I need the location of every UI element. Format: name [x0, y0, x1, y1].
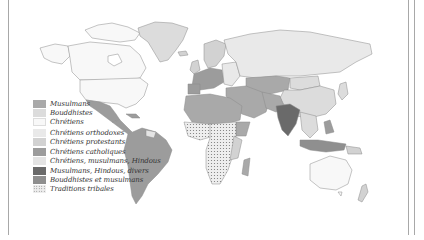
legend-item-chretiens-orthodoxes: Chrétiens orthodoxes	[33, 128, 161, 137]
legend-swatch	[33, 109, 46, 117]
legend-label: Chrétiens protestants	[50, 138, 125, 146]
legend-swatch	[33, 138, 46, 146]
legend-label: Musulmans, Hindous, divers	[50, 167, 149, 175]
region-tasmania	[338, 192, 342, 196]
legend-swatch	[33, 167, 46, 175]
legend-item-chretiens-protestants: Chrétiens protestants	[33, 137, 161, 146]
legend-label: Chrétiens orthodoxes	[50, 129, 124, 137]
map-legend: Musulmans Bouddhistes Chrétiens Chrétien…	[33, 99, 161, 193]
legend-label: Musulmans	[50, 100, 90, 108]
region-iberia	[188, 84, 200, 94]
region-japan	[338, 82, 348, 100]
legend-swatch	[33, 100, 46, 108]
region-new-zealand	[358, 184, 368, 202]
region-west-africa	[184, 122, 214, 140]
region-australia	[310, 156, 352, 190]
region-iceland	[178, 51, 188, 56]
legend-item-musulmans: Musulmans	[33, 99, 161, 108]
region-indonesia	[300, 140, 346, 152]
region-southeast-asia	[300, 112, 318, 138]
legend-label: Traditions tribales	[50, 185, 114, 193]
legend-item-bouddhistes-et-musulmans: Bouddhistes et musulmans	[33, 175, 161, 184]
legend-item-bouddhistes: Bouddhistes	[33, 108, 161, 117]
region-horn-africa	[236, 122, 250, 136]
legend-swatch	[33, 129, 46, 137]
legend-label: Bouddhistes	[50, 109, 93, 117]
legend-item-traditions-tribales: Traditions tribales	[33, 184, 161, 193]
legend-swatch	[33, 118, 46, 126]
legend-label: Chrétiens catholiques	[50, 148, 126, 156]
region-uk	[190, 60, 200, 74]
legend-label: Bouddhistes et musulmans	[50, 176, 143, 184]
region-madagascar	[242, 158, 250, 176]
legend-swatch	[33, 176, 46, 184]
legend-swatch	[33, 148, 46, 156]
region-philippines	[324, 120, 334, 134]
legend-label: Chrétiens	[50, 118, 84, 126]
legend-swatch	[33, 185, 46, 193]
region-canadian-arctic	[85, 23, 140, 42]
legend-item-chretiens-musulmans-hindous: Chrétiens, musulmans, Hindous	[33, 156, 161, 165]
region-india	[276, 104, 300, 136]
legend-item-chretiens: Chrétiens	[33, 117, 161, 126]
region-canada	[68, 42, 146, 80]
region-new-guinea	[346, 146, 362, 154]
legend-item-musulmans-hindous-divers: Musulmans, Hindous, divers	[33, 166, 161, 175]
legend-label: Chrétiens, musulmans, Hindous	[50, 157, 161, 165]
legend-swatch	[33, 157, 46, 165]
region-russia	[224, 30, 372, 78]
legend-item-chretiens-catholiques: Chrétiens catholiques	[33, 147, 161, 156]
region-alaska	[40, 44, 70, 64]
